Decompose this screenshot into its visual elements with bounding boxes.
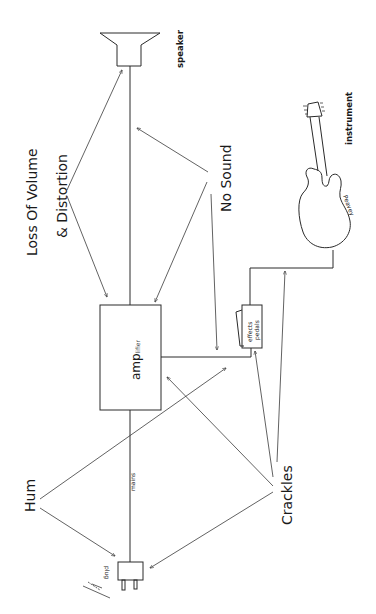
speaker-icon: [100, 33, 160, 66]
effects-label-line1: effects: [246, 322, 253, 342]
arrow-crackles-to-amp: [167, 377, 273, 486]
fault-hum-label: Hum: [22, 479, 38, 512]
mains-label: mains: [129, 473, 136, 491]
guitar-icon: [299, 102, 350, 248]
spark-icon: [83, 582, 110, 598]
amplifier-label-main: amp: [129, 353, 143, 380]
arrow-distortion-to-amp: [67, 196, 107, 297]
instrument-label: instrument: [344, 92, 354, 145]
arrow-nosound-to-speaker-cable: [137, 128, 208, 172]
fault-distortion-label: & Distortion: [54, 154, 70, 238]
arrow-nosound-to-effects-cable: [211, 194, 217, 350]
plug-icon: [118, 562, 143, 590]
speaker-label: speaker: [175, 29, 185, 68]
amplifier-label: amplifier: [129, 340, 143, 380]
effects-label-line2: pedals: [253, 320, 261, 340]
arrow-distortion-to-speaker: [67, 70, 122, 190]
plug-label: plug: [103, 566, 111, 579]
amplifier-label-suffix: lifier: [134, 340, 141, 354]
arrow-crackles-to-instrument-cable: [277, 271, 285, 462]
arrow-crackles-to-plug: [150, 492, 273, 568]
fault-crackles-label: Crackles: [279, 465, 295, 525]
fault-loss-of-volume-label: Loss Of Volume: [24, 148, 40, 256]
arrow-crackles-to-effects: [255, 351, 273, 477]
diagram-canvas: Peavey speaker instrument mains plug amp…: [0, 0, 376, 614]
arrow-nosound-to-amp: [155, 182, 207, 302]
instrument-cable: [250, 250, 333, 305]
amp-to-effects-cable: [161, 348, 251, 357]
fault-no-sound-label: No Sound: [218, 144, 234, 212]
arrow-hum-to-plug: [40, 508, 115, 556]
